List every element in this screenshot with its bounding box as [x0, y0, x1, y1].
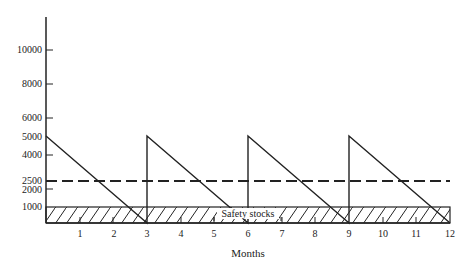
x-tick-labels: 1 2 3 4 5 6 7 8 9 10 11 12 [78, 228, 456, 239]
x-tick-11: 11 [411, 228, 421, 239]
y-tick-8000: 8000 [22, 78, 42, 89]
x-tick-8: 8 [313, 228, 318, 239]
y-ticks [46, 50, 53, 189]
x-tick-5: 5 [212, 228, 217, 239]
safety-stocks-label: Safety stocks [221, 208, 274, 219]
x-tick-9: 9 [347, 228, 352, 239]
y-tick-2000: 2000 [22, 184, 42, 195]
y-tick-4000: 4000 [22, 149, 42, 160]
x-axis-title: Months [231, 247, 265, 259]
x-tick-10: 10 [378, 228, 388, 239]
x-tick-12: 12 [445, 228, 455, 239]
y-tick-10000: 10000 [17, 44, 42, 55]
x-tick-4: 4 [179, 228, 184, 239]
x-tick-1: 1 [78, 228, 83, 239]
x-tick-6: 6 [246, 228, 251, 239]
x-tick-3: 3 [145, 228, 150, 239]
inventory-chart: 10000 8000 6000 5000 4000 2500 2000 1000… [0, 0, 471, 271]
x-tick-2: 2 [112, 228, 117, 239]
y-tick-labels: 10000 8000 6000 5000 4000 2500 2000 1000 [17, 44, 42, 212]
y-tick-5000: 5000 [22, 131, 42, 142]
y-tick-1000: 1000 [22, 201, 42, 212]
x-tick-7: 7 [280, 228, 285, 239]
y-tick-6000: 6000 [22, 112, 42, 123]
